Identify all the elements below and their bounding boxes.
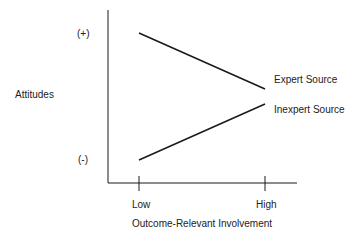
inexpert-source-line [139,104,265,160]
x-tick-low-label: Low [132,199,150,211]
legend-inexpert-source: Inexpert Source [274,104,345,116]
x-axis-label: Outcome-Relevant Involvement [132,218,272,230]
y-tick-minus: (-) [78,154,88,166]
legend-expert-source: Expert Source [274,74,337,86]
y-tick-plus: (+) [77,28,90,40]
expert-source-line [139,33,265,89]
y-axis-label: Attitudes [15,89,54,101]
chart-canvas [0,0,358,243]
x-tick-high-label: High [256,199,277,211]
